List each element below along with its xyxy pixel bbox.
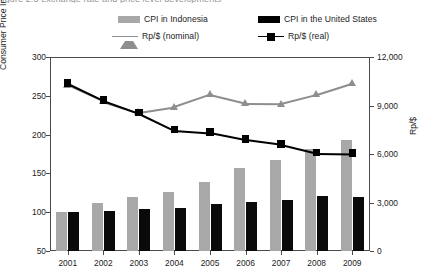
bar-cpi-id-2008 xyxy=(305,149,316,251)
y-tick-left xyxy=(46,96,50,97)
y-tick-left xyxy=(46,173,50,174)
x-tick-label-2009: 2009 xyxy=(339,258,365,268)
legend-item-1: CPI in Indonesia xyxy=(118,14,208,24)
y-tick-right xyxy=(370,106,374,107)
x-tick xyxy=(317,251,318,255)
bar-cpi-us-2007 xyxy=(282,200,293,251)
legend-label: CPI in the United States xyxy=(284,14,377,24)
x-tick-label-2001: 2001 xyxy=(55,258,81,268)
x-tick xyxy=(174,251,175,255)
bar-cpi-us-2003 xyxy=(139,209,150,251)
x-tick xyxy=(139,251,140,255)
x-tick xyxy=(103,251,104,255)
marker-nom-2008 xyxy=(312,90,320,97)
marker-real-2009 xyxy=(349,149,356,156)
x-tick xyxy=(68,251,69,255)
x-tick-label-2002: 2002 xyxy=(90,258,116,268)
y-tick-right xyxy=(370,203,374,204)
y-tick-label-left: 250 xyxy=(22,91,46,101)
chart-legend: CPI in IndonesiaCPI in the United States… xyxy=(0,14,424,46)
bar-cpi-us-2008 xyxy=(317,196,328,251)
y-tick-label-left: 150 xyxy=(22,168,46,178)
y-tick-right xyxy=(370,57,374,58)
legend-label: CPI in Indonesia xyxy=(144,14,208,24)
legend-item-4: Rp/$ (real) xyxy=(258,31,329,41)
marker-nom-2005 xyxy=(206,90,214,97)
y-tick-left xyxy=(46,212,50,213)
marker-real-2003 xyxy=(135,109,142,116)
y-tick-label-left: 200 xyxy=(22,130,46,140)
line-segment-real xyxy=(317,153,353,156)
plot-area xyxy=(50,57,370,251)
x-tick-label-2003: 2003 xyxy=(126,258,152,268)
x-tick xyxy=(246,251,247,255)
y-tick-left xyxy=(46,135,50,136)
bar-cpi-us-2002 xyxy=(104,211,115,251)
y-tick-left xyxy=(46,57,50,58)
marker-nom-2007 xyxy=(277,100,285,107)
x-tick-label-2004: 2004 xyxy=(161,258,187,268)
x-tick-label-2008: 2008 xyxy=(304,258,330,268)
legend-label: Rp/$ (nominal) xyxy=(142,31,199,41)
bar-cpi-us-2006 xyxy=(246,202,257,251)
marker-nom-2009 xyxy=(348,79,356,86)
legend-label: Rp/$ (real) xyxy=(288,31,329,41)
bar-cpi-id-2003 xyxy=(127,197,138,251)
legend-swatch-bar xyxy=(258,16,280,23)
marker-real-2001 xyxy=(64,79,71,86)
y-axis-label-right: Rp/$ xyxy=(408,85,418,135)
bar-cpi-id-2004 xyxy=(163,192,174,251)
chart-figure: figure 2.3 exchange rate and price level… xyxy=(0,0,424,278)
x-tick xyxy=(352,251,353,255)
y-tick-label-right: 0 xyxy=(377,246,382,256)
legend-item-3: Rp/$ (nominal) xyxy=(112,31,199,41)
y-tick-label-right: 3,000 xyxy=(377,198,398,208)
y-tick-label-left: 300 xyxy=(22,52,46,62)
figure-caption-clipped: figure 2.3 exchange rate and price level… xyxy=(0,0,424,3)
legend-swatch-line-triangle xyxy=(112,32,138,41)
x-tick-label-2005: 2005 xyxy=(197,258,223,268)
y-tick-label-right: 12,000 xyxy=(377,52,403,62)
bar-cpi-us-2005 xyxy=(211,204,222,251)
legend-swatch-bar xyxy=(118,16,140,23)
marker-real-2002 xyxy=(100,96,107,103)
y-tick-label-left: 100 xyxy=(22,207,46,217)
marker-nom-2004 xyxy=(170,103,178,110)
bar-cpi-id-2002 xyxy=(92,203,103,251)
bar-cpi-id-2006 xyxy=(234,168,245,251)
x-tick-label-2007: 2007 xyxy=(268,258,294,268)
x-tick-label-2006: 2006 xyxy=(233,258,259,268)
bar-cpi-id-2005 xyxy=(199,182,210,251)
marker-real-2008 xyxy=(313,149,320,156)
y-tick-right xyxy=(370,251,374,252)
bar-cpi-us-2009 xyxy=(353,197,364,251)
bar-cpi-id-2001 xyxy=(56,212,67,251)
y-tick-label-right: 6,000 xyxy=(377,149,398,159)
bar-cpi-us-2004 xyxy=(175,208,186,251)
legend-swatch-line-square xyxy=(258,32,284,41)
y-tick-label-left: 50 xyxy=(22,246,46,256)
marker-nom-2006 xyxy=(241,99,249,106)
marker-real-2007 xyxy=(277,140,284,147)
legend-item-2: CPI in the United States xyxy=(258,14,377,24)
y-tick-label-right: 9,000 xyxy=(377,101,398,111)
marker-real-2005 xyxy=(206,128,213,135)
y-axis-label-left: Consumer Price Index (2000=100) xyxy=(0,0,8,70)
y-tick-right xyxy=(370,154,374,155)
bar-cpi-id-2007 xyxy=(270,160,281,251)
y-tick-left xyxy=(46,251,50,252)
x-tick xyxy=(210,251,211,255)
bar-cpi-us-2001 xyxy=(68,212,79,251)
marker-real-2006 xyxy=(242,135,249,142)
x-tick xyxy=(281,251,282,255)
marker-real-2004 xyxy=(171,126,178,133)
